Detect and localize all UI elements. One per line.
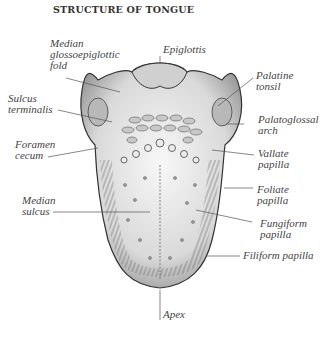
label-median-sulcus: Median sulcus bbox=[22, 195, 56, 217]
label-epiglottis: Epiglottis bbox=[163, 44, 206, 55]
label-palatine-tonsil: Palatine tonsil bbox=[256, 70, 293, 92]
label-sulcus-terminalis: Sulcus terminalis bbox=[8, 93, 53, 115]
label-palatoglossal-arch: Palatoglossal arch bbox=[258, 114, 319, 136]
label-filiform-papilla: Filiform papilla bbox=[243, 250, 314, 261]
label-median-glossoepiglottic-fold: Median glossoepiglottic fold bbox=[50, 38, 120, 71]
label-apex: Apex bbox=[163, 309, 185, 320]
label-fungiform-papilla: Fungiform papilla bbox=[260, 218, 307, 240]
diagram-title: STRUCTURE OF TONGUE bbox=[53, 4, 194, 15]
label-foliate-papilla: Foliate papilla bbox=[257, 184, 289, 206]
label-foramen-cecum: Foramen cecum bbox=[15, 139, 55, 161]
label-vallate-papilla: Vallate papilla bbox=[258, 148, 289, 170]
